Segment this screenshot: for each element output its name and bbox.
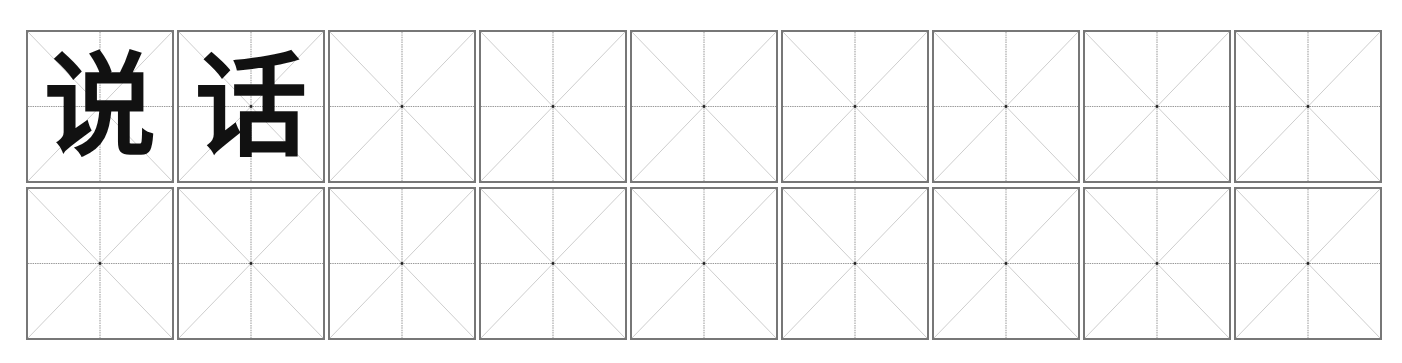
- grid-cell: [1234, 187, 1382, 340]
- cell-character: [481, 32, 625, 181]
- grid-cell: [630, 30, 778, 183]
- grid-cell: [932, 187, 1080, 340]
- grid-cell: [328, 30, 476, 183]
- cell-character: [481, 189, 625, 338]
- grid-cell: [1083, 30, 1231, 183]
- grid-cell: [1234, 30, 1382, 183]
- grid-cell: [1083, 187, 1231, 340]
- grid-cell: [328, 187, 476, 340]
- grid-cell: 说: [26, 30, 174, 183]
- grid-cell: [26, 187, 174, 340]
- cell-character: [632, 32, 776, 181]
- cell-character: [1085, 189, 1229, 338]
- grid-cell: [177, 187, 325, 340]
- cell-character: [934, 32, 1078, 181]
- cell-character: [330, 32, 474, 181]
- grid-cell: [781, 30, 929, 183]
- cell-character: [934, 189, 1078, 338]
- cell-character: [1236, 32, 1380, 181]
- cell-character: [783, 189, 927, 338]
- writing-grid: 说话: [26, 30, 1382, 340]
- cell-character: [330, 189, 474, 338]
- cell-character: 说: [28, 32, 172, 181]
- cell-character: [28, 189, 172, 338]
- cell-character: [632, 189, 776, 338]
- grid-cell: [479, 30, 627, 183]
- grid-cell: 话: [177, 30, 325, 183]
- cell-character: [1085, 32, 1229, 181]
- cell-character: [179, 189, 323, 338]
- grid-cell: [781, 187, 929, 340]
- cell-character: [783, 32, 927, 181]
- cell-character: 话: [179, 32, 323, 181]
- grid-cell: [932, 30, 1080, 183]
- cell-character: [1236, 189, 1380, 338]
- grid-cell: [479, 187, 627, 340]
- grid-cell: [630, 187, 778, 340]
